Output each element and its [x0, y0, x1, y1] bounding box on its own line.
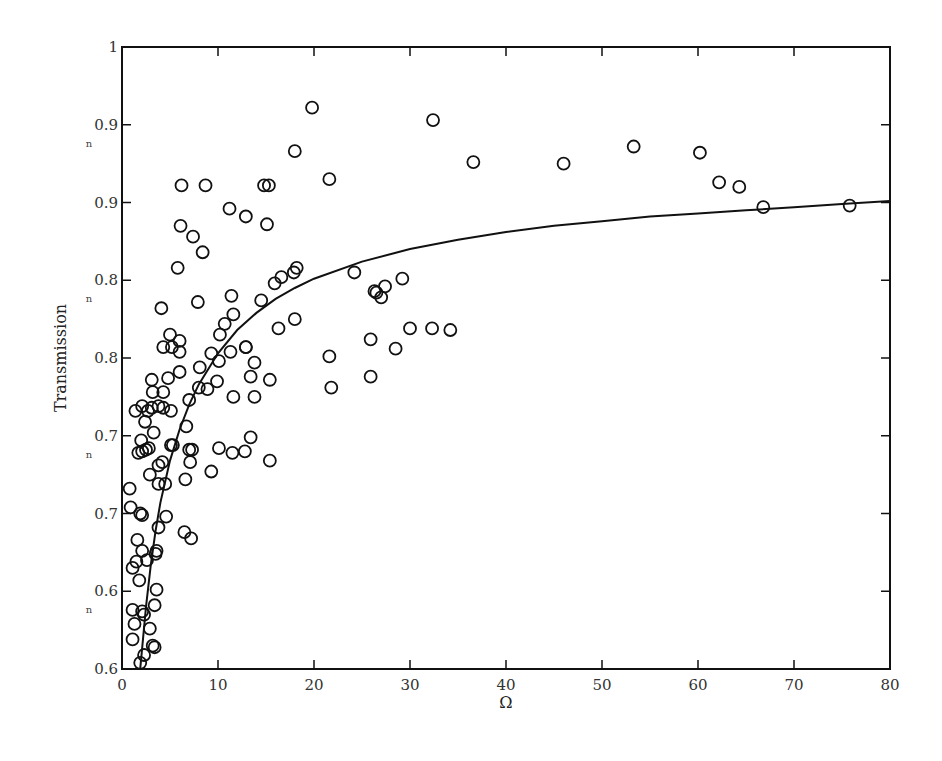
data-point — [192, 296, 204, 308]
data-point — [165, 405, 177, 417]
data-point — [325, 382, 337, 394]
scatter-chart: 01020304050607080 0.60.6n0.70.7n0.80.8n0… — [0, 0, 942, 761]
x-tick-label: 60 — [688, 676, 707, 694]
data-point — [172, 262, 184, 274]
y-axis-title: Transmission — [51, 304, 70, 412]
data-point — [160, 511, 172, 523]
data-point — [151, 584, 163, 596]
plot-frame — [122, 47, 890, 669]
data-points — [124, 102, 856, 669]
data-point — [427, 114, 439, 126]
x-tick-label: 50 — [592, 676, 611, 694]
data-point — [264, 374, 276, 386]
data-point — [255, 294, 267, 306]
data-point — [226, 447, 238, 459]
data-point — [272, 322, 284, 334]
data-point — [225, 290, 237, 302]
data-point — [162, 372, 174, 384]
data-point — [127, 633, 139, 645]
data-point — [426, 322, 438, 334]
data-point — [184, 456, 196, 468]
x-tick-label: 40 — [496, 676, 515, 694]
data-point — [180, 420, 192, 432]
data-point — [187, 231, 199, 243]
x-tick-label: 30 — [400, 676, 419, 694]
data-point — [224, 203, 236, 215]
data-point — [323, 350, 335, 362]
data-point — [124, 483, 136, 495]
y-tick-submark: n — [86, 604, 93, 615]
x-tick-label: 20 — [304, 676, 323, 694]
y-tick-label: 1 — [108, 38, 118, 56]
data-point — [248, 357, 260, 369]
data-point — [248, 391, 260, 403]
data-point — [396, 273, 408, 285]
x-tick-label: 70 — [784, 676, 803, 694]
data-point — [176, 179, 188, 191]
y-tick-label: 0.7 — [94, 427, 118, 445]
data-point — [194, 361, 206, 373]
data-point — [245, 371, 257, 383]
data-point — [289, 145, 301, 157]
data-point — [175, 220, 187, 232]
y-tick-submark: n — [86, 138, 93, 149]
data-point — [348, 266, 360, 278]
data-point — [239, 445, 251, 457]
data-point — [155, 302, 167, 314]
data-point — [200, 179, 212, 191]
data-point — [132, 447, 144, 459]
data-point — [306, 102, 318, 114]
data-point — [227, 391, 239, 403]
y-tick-label: 0.9 — [94, 194, 118, 212]
data-point — [149, 599, 161, 611]
data-point — [156, 456, 168, 468]
y-tick-label: 0.6 — [94, 582, 118, 600]
y-tick-label: 0.8 — [94, 271, 118, 289]
fit-curve — [140, 201, 890, 669]
data-point — [694, 147, 706, 159]
data-point — [404, 322, 416, 334]
data-point — [201, 383, 213, 395]
data-point — [213, 355, 225, 367]
plot-border — [122, 47, 890, 669]
x-axis-title: Ω — [499, 693, 512, 712]
data-point — [323, 173, 335, 185]
data-point — [139, 416, 151, 428]
data-point — [174, 366, 186, 378]
data-point — [365, 371, 377, 383]
x-tick-label: 80 — [880, 676, 899, 694]
data-point — [289, 313, 301, 325]
data-point — [133, 574, 145, 586]
x-tick-label: 0 — [117, 676, 127, 694]
data-point — [146, 374, 158, 386]
data-point — [197, 246, 209, 258]
data-point — [152, 521, 164, 533]
y-tick-submark: n — [86, 293, 93, 304]
data-point — [390, 343, 402, 355]
data-point — [205, 347, 217, 359]
data-point — [365, 333, 377, 345]
data-point — [205, 466, 217, 478]
data-point — [757, 201, 769, 213]
data-point — [240, 341, 252, 353]
y-tick-label: 0.8 — [94, 349, 118, 367]
data-point — [628, 141, 640, 153]
data-point — [128, 618, 140, 630]
data-point — [214, 329, 226, 341]
data-point — [264, 455, 276, 467]
x-tick-label: 10 — [208, 676, 227, 694]
data-point — [144, 623, 156, 635]
data-point — [183, 444, 195, 456]
y-tick-label: 0.9 — [94, 116, 118, 134]
y-tick-label: 0.6 — [94, 660, 118, 678]
data-point — [733, 181, 745, 193]
data-point — [245, 431, 257, 443]
data-point — [444, 324, 456, 336]
data-point — [224, 346, 236, 358]
data-point — [240, 210, 252, 222]
data-point — [179, 473, 191, 485]
data-point — [186, 444, 198, 456]
y-tick-submark: n — [86, 449, 93, 460]
data-point — [558, 158, 570, 170]
data-point — [844, 200, 856, 212]
